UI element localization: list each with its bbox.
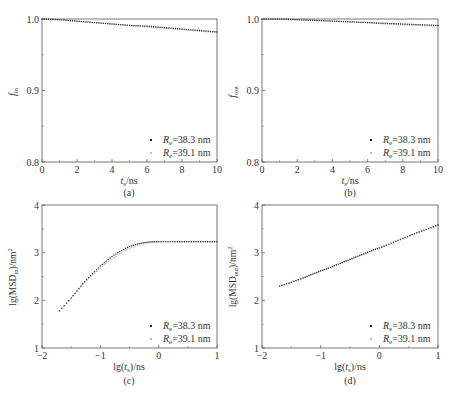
- data-point: [365, 22, 366, 23]
- data-point: [201, 30, 202, 31]
- data-point: [123, 249, 124, 250]
- data-point: [308, 275, 309, 276]
- data-point: [298, 279, 299, 280]
- data-point: [383, 245, 384, 246]
- data-point: [137, 245, 138, 246]
- data-point: [375, 249, 376, 250]
- data-point: [205, 30, 206, 31]
- x-tick-label: 2: [295, 164, 300, 175]
- data-point: [288, 282, 289, 283]
- data-point: [292, 19, 293, 20]
- data-point: [170, 241, 171, 242]
- data-point: [191, 241, 192, 242]
- data-point: [352, 21, 353, 22]
- data-point: [387, 23, 388, 24]
- data-point: [389, 23, 390, 24]
- data-point: [94, 22, 95, 23]
- legend-marker-gray: [370, 152, 372, 154]
- data-point: [212, 31, 213, 32]
- legend-marker-black: [150, 325, 152, 327]
- panel-b: 02468100.80.91.0 fout ts/ns (b) Re=38.3 …: [227, 14, 443, 200]
- data-points: [261, 18, 438, 26]
- y-tick-label: 3: [34, 247, 39, 258]
- data-point: [286, 19, 287, 20]
- data-point: [297, 19, 298, 20]
- data-point: [86, 279, 87, 280]
- data-point: [279, 285, 280, 286]
- data-point: [66, 302, 67, 303]
- data-point: [319, 20, 320, 21]
- data-point: [340, 263, 341, 264]
- data-point: [284, 284, 285, 285]
- legend: Re=38.3 nm Re=39.1 nm: [150, 134, 211, 160]
- data-point: [118, 24, 119, 25]
- data-point: [407, 236, 408, 237]
- data-point: [310, 20, 311, 21]
- y-tick-label: 4: [254, 200, 259, 211]
- data-point: [90, 276, 91, 277]
- data-point: [299, 19, 300, 20]
- data-point: [320, 270, 321, 271]
- data-point: [336, 21, 337, 22]
- data-point: [68, 20, 69, 21]
- data-point: [429, 24, 430, 25]
- data-point: [129, 246, 130, 247]
- data-point: [433, 226, 434, 227]
- data-point: [92, 22, 93, 23]
- data-point: [100, 23, 101, 24]
- x-tick-label: 4: [110, 164, 115, 175]
- data-point: [347, 260, 348, 261]
- data-point: [160, 27, 161, 28]
- data-point: [74, 293, 75, 294]
- data-point: [188, 29, 189, 30]
- data-point: [87, 21, 88, 22]
- data-point: [84, 281, 85, 282]
- data-point: [356, 22, 357, 23]
- data-point: [279, 18, 280, 19]
- data-point: [380, 23, 381, 24]
- data-point: [314, 20, 315, 21]
- data-point: [294, 19, 295, 20]
- data-point: [435, 225, 436, 226]
- data-point: [377, 248, 378, 249]
- data-point: [102, 266, 103, 267]
- data-point: [193, 241, 194, 242]
- data-point: [386, 244, 387, 245]
- data-point: [61, 19, 62, 20]
- x-tick-label: 6: [145, 164, 150, 175]
- data-point: [286, 283, 287, 284]
- data-point: [318, 271, 319, 272]
- data-point: [393, 242, 394, 243]
- data-point: [146, 26, 147, 27]
- data-point: [117, 254, 118, 255]
- x-axis-label: lg(ts)/ns: [334, 361, 366, 374]
- data-point: [155, 26, 156, 27]
- x-tick-label: 8: [400, 164, 405, 175]
- data-point: [277, 18, 278, 19]
- data-point: [430, 227, 431, 228]
- data-point: [428, 228, 429, 229]
- y-tick-label: 4: [34, 200, 39, 211]
- data-point: [78, 288, 79, 289]
- data-point: [113, 257, 114, 258]
- data-point: [281, 285, 282, 286]
- data-point: [116, 24, 117, 25]
- data-point: [345, 260, 346, 261]
- data-point: [108, 261, 109, 262]
- x-tick-label: 0: [377, 350, 382, 361]
- data-point: [328, 267, 329, 268]
- data-point: [360, 22, 361, 23]
- data-point: [166, 27, 167, 28]
- data-point: [50, 19, 51, 20]
- legend-entry-1: Re=38.3 nm: [162, 320, 211, 333]
- legend-marker-gray: [150, 338, 152, 340]
- data-point: [90, 22, 91, 23]
- data-points: [59, 241, 218, 311]
- data-point: [68, 300, 69, 301]
- data-point: [181, 28, 182, 29]
- data-point: [365, 252, 366, 253]
- legend-entry-1: Re=38.3 nm: [162, 134, 211, 147]
- data-point: [108, 259, 109, 260]
- data-point: [357, 256, 358, 257]
- data-point: [135, 245, 136, 246]
